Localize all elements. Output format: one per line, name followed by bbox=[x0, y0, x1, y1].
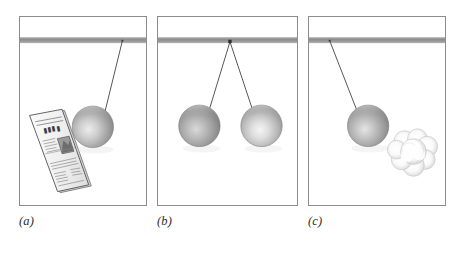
panel-b-label: (b) bbox=[157, 214, 172, 229]
panel-a: ▮▮▮▮ bbox=[19, 16, 147, 206]
pendulum-ball bbox=[347, 105, 388, 152]
figure-root: ▮▮▮▮ bbox=[0, 0, 464, 253]
pendulum-cords bbox=[208, 40, 253, 113]
panel-a-label: (a) bbox=[19, 214, 34, 229]
pendulum-ball bbox=[72, 106, 113, 153]
pendulum-ball-right bbox=[241, 105, 282, 152]
support-bar bbox=[158, 38, 297, 43]
panel-a-illustration: ▮▮▮▮ bbox=[20, 17, 146, 205]
pendulum-cord bbox=[104, 40, 124, 117]
pendulum-cord bbox=[329, 40, 359, 114]
panel-c-label: (c) bbox=[308, 214, 322, 229]
panel-b bbox=[157, 16, 298, 206]
panel-b-illustration bbox=[158, 17, 297, 205]
support-bar bbox=[20, 38, 146, 43]
panel-c-illustration bbox=[309, 17, 445, 205]
panel-c bbox=[308, 16, 446, 206]
puff-cloud-object bbox=[387, 129, 437, 176]
pendulum-ball-left bbox=[179, 105, 220, 152]
